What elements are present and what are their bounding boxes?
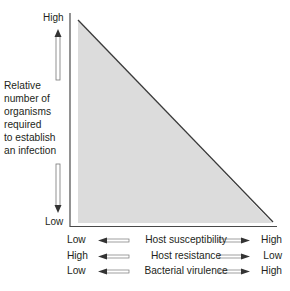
x-row-host-susceptibility: Low Host susceptibility High [60,234,290,248]
y-title-line: number of [4,92,70,105]
x-row-bacterial-virulence: Low Bacterial virulence High [60,265,290,279]
y-title-line: organisms [4,105,70,118]
row-right-value: High [261,234,282,245]
y-title-line: to establish [4,131,70,144]
y-axis-title: Relative number of organisms required to… [4,79,70,157]
row-left-value: Low [67,234,86,245]
row-left-value: High [67,250,88,261]
row-right-value: High [261,265,282,276]
y-title-line: required [4,118,70,131]
y-title-line: Relative [4,79,70,92]
y-title-line: an infection [4,144,70,157]
row-label: Host resistance [133,250,239,261]
y-low-label: Low [45,216,63,228]
row-label: Host susceptibility [133,234,239,245]
up-arrow-icon [55,29,62,80]
down-arrow-icon [55,164,62,213]
row-left-value: Low [67,265,86,276]
row-label: Bacterial virulence [133,265,239,276]
y-high-label: High [43,12,64,24]
row-right-value: Low [263,250,282,261]
x-row-host-resistance: High Host resistance Low [60,250,290,264]
